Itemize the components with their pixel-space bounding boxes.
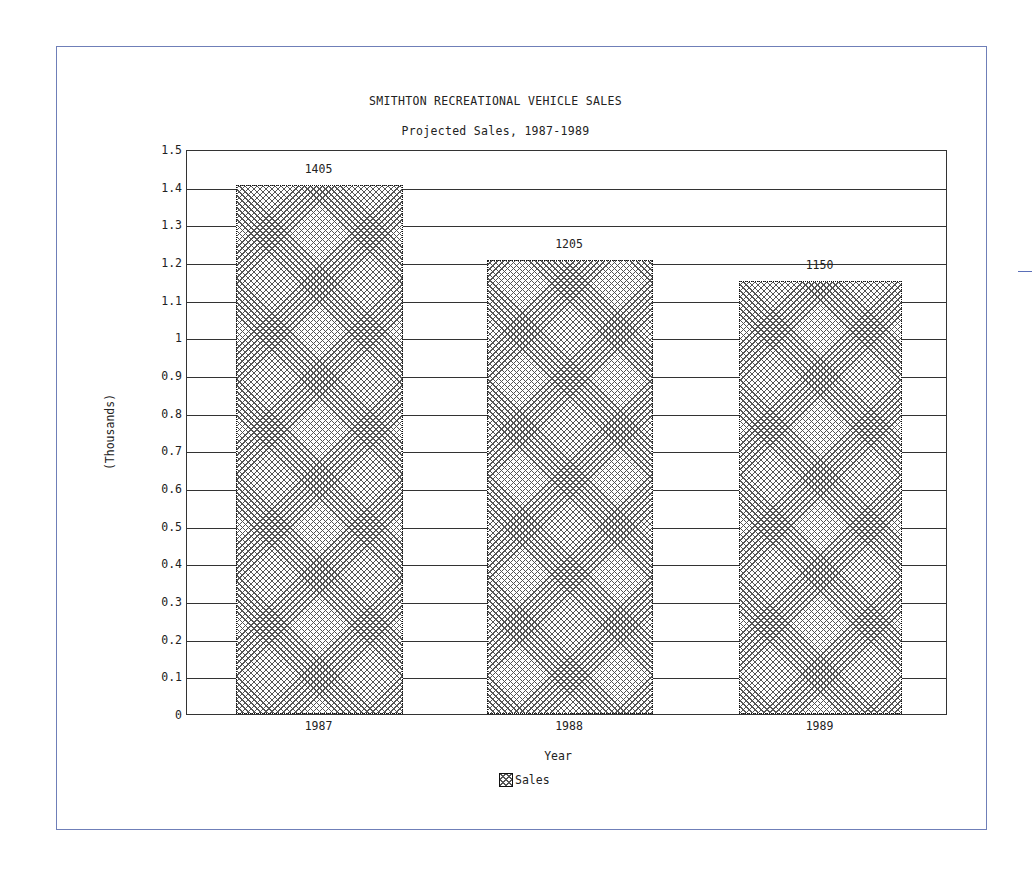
x-tick-label: 1989 xyxy=(780,719,860,733)
bar-1988 xyxy=(487,260,653,714)
chart-title: SMITHTON RECREATIONAL VEHICLE SALES xyxy=(0,94,1011,108)
y-tick-label: 0 xyxy=(142,708,182,722)
y-tick-label: 0.8 xyxy=(142,407,182,421)
bar-value-label: 1405 xyxy=(279,162,359,176)
y-tick-label: 1.1 xyxy=(142,294,182,308)
x-tick-label: 1987 xyxy=(279,719,359,733)
y-tick-label: 1.2 xyxy=(142,256,182,270)
y-tick-label: 0.2 xyxy=(142,633,182,647)
y-tick-label: 0.4 xyxy=(142,557,182,571)
bar-value-label: 1205 xyxy=(529,237,609,251)
y-tick-label: 1.3 xyxy=(142,218,182,232)
page-edge-mark xyxy=(1018,271,1032,272)
y-tick-label: 0.1 xyxy=(142,670,182,684)
y-tick-label: 0.7 xyxy=(142,444,182,458)
y-tick-label: 1 xyxy=(142,331,182,345)
y-tick-label: 0.5 xyxy=(142,520,182,534)
plot-area xyxy=(186,150,947,715)
y-tick-label: 1.4 xyxy=(142,181,182,195)
chart-subtitle: Projected Sales, 1987-1989 xyxy=(0,124,1011,138)
legend: Sales xyxy=(499,773,550,787)
x-tick-label: 1988 xyxy=(529,719,609,733)
legend-label-sales: Sales xyxy=(515,773,550,787)
bar-value-label: 1150 xyxy=(780,258,860,272)
bar-1987 xyxy=(236,185,403,714)
bar-1989 xyxy=(739,281,902,714)
y-tick-label: 1.5 xyxy=(142,143,182,157)
y-tick-label: 0.9 xyxy=(142,369,182,383)
legend-swatch-sales xyxy=(499,773,513,787)
y-tick-label: 0.6 xyxy=(142,482,182,496)
y-tick-label: 0.3 xyxy=(142,595,182,609)
x-axis-label: Year xyxy=(528,749,588,763)
y-axis-label: (Thousands) xyxy=(103,394,117,470)
